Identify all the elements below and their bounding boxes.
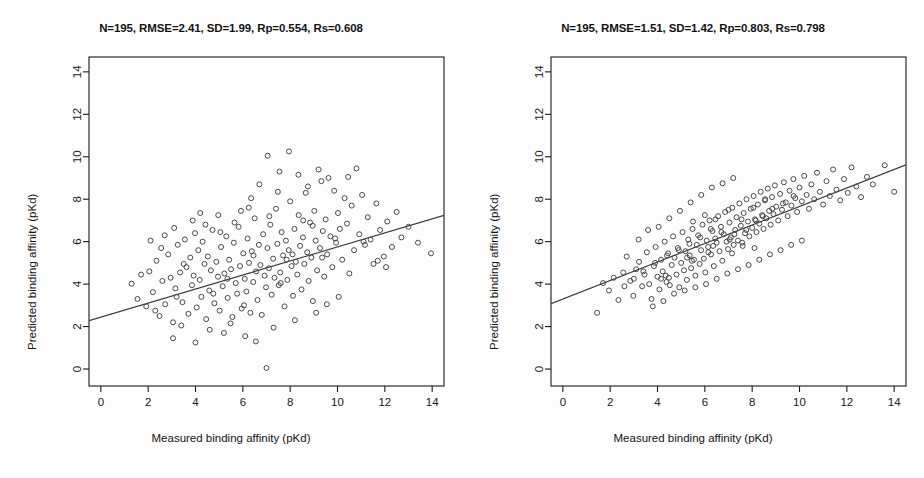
svg-text:2: 2 bbox=[145, 396, 151, 408]
svg-text:10: 10 bbox=[533, 150, 545, 163]
svg-text:2: 2 bbox=[71, 323, 83, 329]
svg-text:10: 10 bbox=[331, 396, 344, 408]
svg-text:4: 4 bbox=[71, 280, 83, 287]
svg-text:14: 14 bbox=[533, 65, 545, 78]
svg-text:6: 6 bbox=[240, 396, 246, 408]
svg-text:10: 10 bbox=[71, 150, 83, 163]
svg-text:4: 4 bbox=[654, 396, 661, 408]
svg-text:8: 8 bbox=[749, 396, 755, 408]
svg-text:2: 2 bbox=[533, 323, 545, 329]
panel-right: N=195, RMSE=1.51, SD=1.42, Rp=0.803, Rs=… bbox=[462, 0, 924, 478]
svg-text:12: 12 bbox=[533, 108, 545, 121]
svg-text:14: 14 bbox=[426, 396, 439, 408]
svg-text:10: 10 bbox=[793, 396, 806, 408]
svg-text:14: 14 bbox=[71, 65, 83, 78]
svg-text:14: 14 bbox=[888, 396, 901, 408]
svg-text:0: 0 bbox=[533, 366, 545, 372]
svg-text:6: 6 bbox=[702, 396, 708, 408]
panel-right-ylabel: Predicted binding affinity (pKd) bbox=[488, 194, 500, 350]
panel-left: N=195, RMSE=2.41, SD=1.99, Rp=0.554, Rs=… bbox=[0, 0, 462, 478]
svg-text:6: 6 bbox=[533, 238, 545, 244]
svg-text:0: 0 bbox=[98, 396, 104, 408]
svg-text:12: 12 bbox=[840, 396, 853, 408]
panel-right-plot: 0246810121402468101214 bbox=[462, 0, 924, 478]
svg-text:4: 4 bbox=[192, 396, 199, 408]
panel-left-xlabel: Measured binding affinity (pKd) bbox=[0, 432, 462, 444]
svg-text:12: 12 bbox=[378, 396, 391, 408]
figure-scatter-pair: N=195, RMSE=2.41, SD=1.99, Rp=0.554, Rs=… bbox=[0, 0, 924, 478]
svg-text:8: 8 bbox=[71, 196, 83, 202]
svg-text:4: 4 bbox=[533, 280, 545, 287]
svg-text:2: 2 bbox=[607, 396, 613, 408]
panel-right-xlabel: Measured binding affinity (pKd) bbox=[462, 432, 924, 444]
svg-text:0: 0 bbox=[71, 366, 83, 372]
svg-text:0: 0 bbox=[560, 396, 566, 408]
panel-left-ylabel: Predicted binding affinity (pKd) bbox=[26, 194, 38, 350]
svg-text:6: 6 bbox=[71, 238, 83, 244]
svg-text:8: 8 bbox=[533, 196, 545, 202]
svg-text:8: 8 bbox=[287, 396, 293, 408]
svg-text:12: 12 bbox=[71, 108, 83, 121]
panel-left-plot: 0246810121402468101214 bbox=[0, 0, 462, 478]
